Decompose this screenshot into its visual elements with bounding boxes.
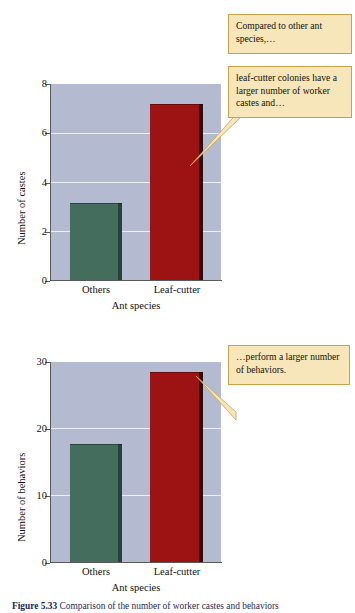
figure-caption-text: Comparison of the number of worker caste… <box>59 601 278 611</box>
bar-face <box>150 372 199 562</box>
x-axis-castes <box>50 280 222 281</box>
x-axis-title-behaviors: Ant species <box>50 582 222 593</box>
bar-cap <box>70 203 122 204</box>
y-tick-label: 2 <box>42 227 47 238</box>
y-tick-label: 4 <box>42 177 47 188</box>
y-axis-behaviors: 30 20 10 0 <box>50 362 51 563</box>
y-tick-label: 20 <box>37 424 48 435</box>
figure-container: 8 6 4 2 0 Number of castes Others Leaf-c… <box>0 0 355 613</box>
bar-cap <box>70 444 122 445</box>
bar-cap <box>150 372 203 373</box>
y-tick-label: 0 <box>42 558 47 569</box>
y-axis-title-behaviors: Number of behaviors <box>16 453 27 542</box>
bar-side <box>118 444 122 562</box>
y-axis-title-castes: Number of castes <box>16 172 27 245</box>
callout-perform-larger-number-of-behaviors: …perform a larger number of behaviors. <box>228 345 350 385</box>
bar-face <box>70 444 118 562</box>
callout-larger-number-of-worker-castes: leaf-cutter colonies have a larger numbe… <box>228 66 352 118</box>
y-tick-label: 30 <box>37 357 48 368</box>
category-label-others: Others <box>82 566 110 577</box>
x-axis-behaviors <box>50 562 222 563</box>
bar-face <box>70 203 118 280</box>
y-tick-label: 0 <box>42 276 47 287</box>
bar-cap <box>150 104 203 105</box>
y-axis-castes: 8 6 4 2 0 <box>50 84 51 281</box>
figure-caption-number: Figure 5.33 <box>12 601 57 611</box>
callout-pointer-castes <box>190 110 240 166</box>
callout-text: …perform a larger number of behaviors. <box>236 351 339 375</box>
callout-text: Compared to other ant species,… <box>236 20 322 44</box>
bar-others-behaviors <box>70 444 122 562</box>
callout-text: leaf-cutter colonies have a larger numbe… <box>236 72 337 108</box>
category-label-others: Others <box>82 284 110 295</box>
category-label-leafcutter: Leaf-cutter <box>154 284 201 295</box>
y-tick-label: 6 <box>42 128 47 139</box>
category-label-leafcutter: Leaf-cutter <box>154 566 201 577</box>
bar-others-castes <box>70 203 122 280</box>
bar-side <box>118 203 122 280</box>
y-tick-label: 8 <box>42 79 47 90</box>
y-tick-label: 10 <box>37 491 48 502</box>
figure-caption: Figure 5.33 Comparison of the number of … <box>12 601 350 613</box>
callout-compared-to-other-ant-species: Compared to other ant species,… <box>228 14 352 54</box>
